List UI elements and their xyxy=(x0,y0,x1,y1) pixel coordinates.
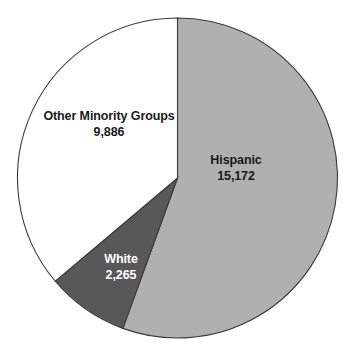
pie-chart-canvas xyxy=(0,0,356,346)
pie-chart: Other Minority Groups 9,886 Hispanic 15,… xyxy=(0,0,356,346)
pie-slice-group xyxy=(17,18,337,338)
